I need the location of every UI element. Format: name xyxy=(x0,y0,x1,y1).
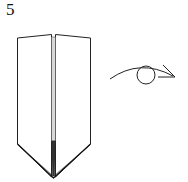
center-crease-strip xyxy=(52,37,56,141)
arrow-head xyxy=(163,65,175,77)
diagram-canvas xyxy=(0,0,188,182)
center-fold-shadow xyxy=(52,141,56,176)
eye-circle xyxy=(137,66,155,84)
origami-model xyxy=(18,35,91,179)
right-flap xyxy=(56,35,91,178)
turn-over-icon xyxy=(110,65,175,84)
left-flap xyxy=(18,35,52,178)
